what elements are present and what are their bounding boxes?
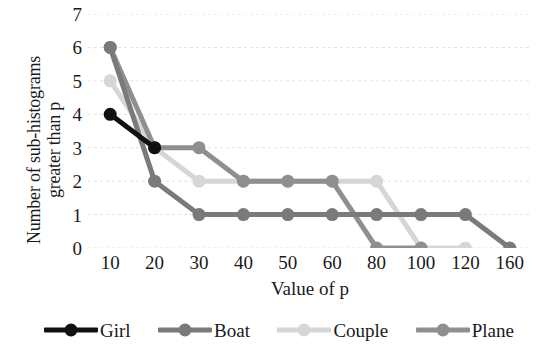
y-tick-label-7: 7 bbox=[56, 5, 82, 24]
x-tick-label-120: 120 bbox=[451, 252, 480, 275]
legend-label-boat: Boat bbox=[213, 321, 250, 340]
data-point-boat-1 bbox=[148, 175, 161, 188]
y-tick-label-2: 2 bbox=[56, 172, 82, 191]
legend-marker-icon bbox=[436, 324, 449, 337]
data-point-plane-4 bbox=[281, 175, 294, 188]
series-boat bbox=[104, 41, 517, 248]
y-axis-title-line-1: Number of sub-histograms bbox=[24, 56, 44, 244]
legend-item-boat[interactable]: Boat bbox=[158, 321, 250, 340]
legend-marker-icon bbox=[179, 324, 192, 337]
x-tick-label-160: 160 bbox=[496, 252, 525, 275]
legend-label-plane: Plane bbox=[471, 321, 514, 340]
data-point-girl-1 bbox=[148, 141, 161, 154]
y-axis-tick-labels: 76543210 bbox=[56, 0, 82, 260]
data-point-boat-2 bbox=[193, 208, 206, 221]
x-axis-title: Value of p bbox=[88, 279, 532, 300]
line-chart: Number of sub-histograms greater than p … bbox=[0, 0, 539, 348]
data-point-girl-0 bbox=[104, 108, 117, 121]
legend-swatch-plane bbox=[416, 322, 470, 338]
x-tick-label-20: 20 bbox=[145, 252, 164, 275]
y-tick-label-6: 6 bbox=[56, 38, 82, 57]
x-tick-label-30: 30 bbox=[190, 252, 209, 275]
legend-label-girl: Girl bbox=[99, 321, 131, 340]
series-layer bbox=[104, 41, 517, 248]
legend-swatch-boat bbox=[158, 322, 212, 338]
legend-item-couple[interactable]: Couple bbox=[277, 321, 388, 340]
x-tick-label-10: 10 bbox=[101, 252, 120, 275]
x-axis-tick-labels: 10203040506080100120160 bbox=[88, 252, 532, 278]
x-tick-label-100: 100 bbox=[407, 252, 436, 275]
chart-legend: GirlBoatCouplePlane bbox=[44, 315, 514, 345]
data-point-boat-4 bbox=[281, 208, 294, 221]
data-point-boat-3 bbox=[237, 208, 250, 221]
plot-area bbox=[88, 14, 532, 248]
y-tick-label-3: 3 bbox=[56, 138, 82, 157]
data-point-couple-8 bbox=[459, 242, 472, 249]
data-point-plane-5 bbox=[326, 175, 339, 188]
plot-canvas bbox=[88, 14, 532, 248]
data-point-boat-8 bbox=[459, 208, 472, 221]
series-couple bbox=[104, 74, 472, 248]
legend-swatch-couple bbox=[277, 322, 331, 338]
y-tick-label-4: 4 bbox=[56, 105, 82, 124]
data-point-boat-0 bbox=[104, 41, 117, 54]
series-line-couple bbox=[110, 81, 465, 248]
data-point-couple-2 bbox=[193, 175, 206, 188]
legend-marker-icon bbox=[298, 324, 311, 337]
data-point-boat-6 bbox=[370, 208, 383, 221]
data-point-boat-5 bbox=[326, 208, 339, 221]
x-tick-label-40: 40 bbox=[234, 252, 253, 275]
legend-marker-icon bbox=[65, 324, 78, 337]
y-tick-label-0: 0 bbox=[56, 239, 82, 258]
data-point-boat-7 bbox=[415, 208, 428, 221]
data-point-couple-6 bbox=[370, 175, 383, 188]
x-tick-label-80: 80 bbox=[367, 252, 386, 275]
legend-item-plane[interactable]: Plane bbox=[416, 321, 514, 340]
x-tick-label-50: 50 bbox=[278, 252, 297, 275]
legend-item-girl[interactable]: Girl bbox=[44, 321, 131, 340]
data-point-plane-3 bbox=[237, 175, 250, 188]
y-tick-label-5: 5 bbox=[56, 71, 82, 90]
data-point-couple-0 bbox=[104, 74, 117, 87]
data-point-plane-2 bbox=[193, 141, 206, 154]
x-tick-label-60: 60 bbox=[323, 252, 342, 275]
y-tick-label-1: 1 bbox=[56, 205, 82, 224]
legend-swatch-girl bbox=[44, 322, 98, 338]
legend-label-couple: Couple bbox=[332, 321, 388, 340]
